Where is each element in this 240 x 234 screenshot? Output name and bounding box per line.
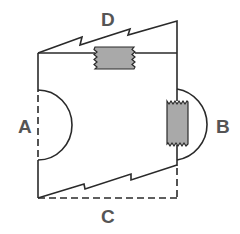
label-c: C	[101, 206, 115, 227]
block-b	[167, 101, 188, 146]
label-d: D	[101, 9, 115, 30]
label-b: B	[216, 116, 230, 137]
label-a: A	[18, 116, 32, 137]
zigzag-c	[38, 165, 177, 198]
diagram-canvas: D A B C	[0, 0, 240, 234]
semicircle-a	[38, 90, 72, 160]
block-d	[94, 47, 135, 69]
